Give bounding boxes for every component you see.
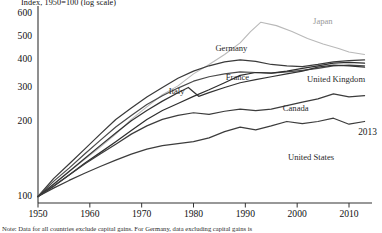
series-line-japan xyxy=(38,22,365,196)
chart-plot-area xyxy=(0,0,382,233)
endpoint-year-label: 2013 xyxy=(358,127,377,137)
x-tick-2000: 2000 xyxy=(277,209,317,219)
y-tick-100: 100 xyxy=(2,191,32,201)
axis-lines xyxy=(38,6,372,203)
series-label-italy: Italy xyxy=(169,87,185,96)
x-tick-1970: 1970 xyxy=(122,209,162,219)
x-tick-2010: 2010 xyxy=(329,209,369,219)
y-tick-400: 400 xyxy=(2,54,32,64)
x-tick-1950: 1950 xyxy=(18,209,58,219)
chart-note: Note: Data for all countries exclude cap… xyxy=(2,225,382,232)
y-tick-200: 200 xyxy=(2,116,32,126)
x-tick-1990: 1990 xyxy=(225,209,265,219)
x-tick-1960: 1960 xyxy=(70,209,110,219)
series-line-canada xyxy=(38,94,365,197)
series-paths xyxy=(38,22,365,196)
x-tick-1980: 1980 xyxy=(174,209,214,219)
series-label-germany: Germany xyxy=(215,44,247,53)
series-label-france: France xyxy=(226,73,249,82)
y-tick-500: 500 xyxy=(2,31,32,41)
series-label-united-kingdom: United Kingdom xyxy=(307,75,365,84)
series-label-japan: Japan xyxy=(313,17,333,26)
series-line-france xyxy=(38,65,365,196)
y-tick-600: 600 xyxy=(2,8,32,18)
series-label-canada: Canada xyxy=(283,104,309,113)
x-axis-ticks xyxy=(38,203,349,208)
series-line-italy xyxy=(38,65,365,196)
chart-container: Index, 1950=100 (log scale) 600500400300… xyxy=(0,0,382,233)
series-label-united-states: United States xyxy=(288,153,334,162)
y-tick-300: 300 xyxy=(2,82,32,92)
